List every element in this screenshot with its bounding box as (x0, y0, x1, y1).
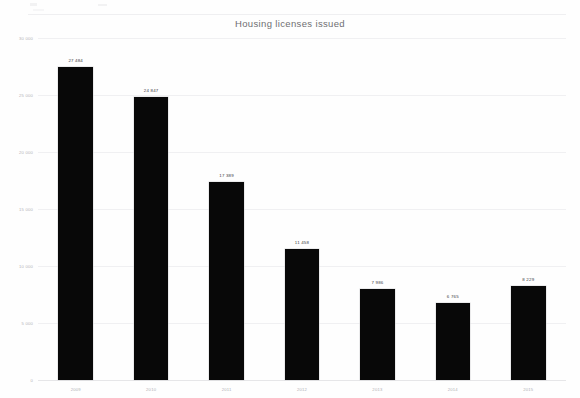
bar-value-label: 6 765 (447, 294, 459, 299)
y-axis-tick-label: 15 000 (19, 207, 33, 212)
x-axis-tick-label: 2011 (222, 387, 232, 392)
gridline (38, 152, 566, 153)
y-axis-tick-label: 30 000 (19, 36, 33, 41)
chart-title: Housing licenses issued (0, 18, 580, 29)
bar-value-label: 24 847 (144, 88, 159, 93)
gridline (38, 380, 566, 381)
bar-value-label: 27 484 (68, 58, 83, 63)
bar-chart: Housing licenses issued 05 00010 00015 0… (0, 0, 580, 398)
gridline (38, 38, 566, 39)
bar[interactable] (436, 303, 471, 380)
x-axis-tick-label: 2010 (146, 387, 156, 392)
x-axis-tick-label: 2014 (448, 387, 458, 392)
y-axis-tick-label: 25 000 (19, 93, 33, 98)
bar-value-label: 7 986 (371, 280, 383, 285)
scanned-page: Housing licenses issued 05 00010 00015 0… (0, 0, 580, 398)
x-axis-tick-label: 2015 (523, 387, 533, 392)
x-axis-tick-label: 2012 (297, 387, 307, 392)
y-axis-tick-label: 20 000 (19, 150, 33, 155)
bar[interactable] (511, 286, 546, 380)
bar-value-label: 11 458 (295, 240, 309, 245)
bar[interactable] (360, 289, 395, 380)
x-axis-tick-label: 2013 (372, 387, 382, 392)
gridline (38, 209, 566, 210)
bar[interactable] (209, 182, 244, 380)
y-axis-tick-label: 0 (30, 378, 33, 383)
bar-value-label: 17 389 (219, 173, 234, 178)
x-axis-tick-label: 2009 (71, 387, 81, 392)
gridline (38, 95, 566, 96)
bar-value-label: 8 229 (522, 277, 534, 282)
bar[interactable] (285, 249, 320, 380)
plot-area: 05 00010 00015 00020 00025 00030 00027 4… (38, 38, 566, 380)
y-axis-tick-label: 10 000 (19, 264, 33, 269)
y-axis-tick-label: 5 000 (22, 321, 33, 326)
bar[interactable] (58, 67, 93, 380)
bar[interactable] (134, 97, 169, 380)
